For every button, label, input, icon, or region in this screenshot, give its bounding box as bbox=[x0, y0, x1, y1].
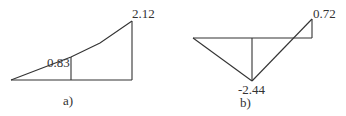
diagram-a bbox=[11, 21, 132, 80]
right-slope-b bbox=[252, 19, 312, 81]
caption-a: a) bbox=[63, 94, 73, 107]
value-label-0-72: 0.72 bbox=[313, 7, 336, 20]
value-label-2-12: 2.12 bbox=[132, 7, 155, 20]
value-label-0-83: 0.83 bbox=[47, 56, 70, 69]
diagram-b bbox=[193, 19, 312, 81]
caption-b: b) bbox=[240, 96, 251, 109]
left-slope-b bbox=[193, 38, 252, 81]
